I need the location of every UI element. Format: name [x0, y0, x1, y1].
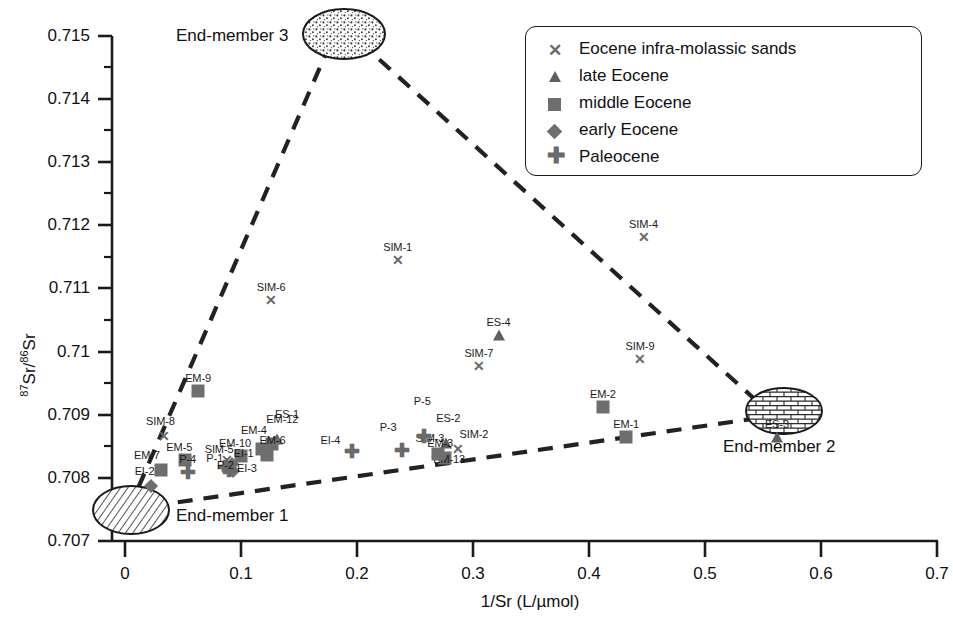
data-point-sim-1: ✕ [392, 253, 404, 267]
data-point-em-6 [260, 449, 273, 462]
data-point-label-es-2: ES-2 [436, 412, 460, 424]
data-point-em-9 [192, 385, 205, 398]
data-point-label-em-6: EM-6 [260, 434, 286, 446]
data-point-label-es-3: ES-3 [765, 418, 789, 430]
data-point-em-2 [596, 400, 609, 413]
data-point-label-p-2: P-2 [217, 459, 234, 471]
data-point-label-em-5: EM-5 [166, 441, 192, 453]
data-point-label-ei-3: EI-3 [237, 462, 257, 474]
data-point-ei-2 [143, 479, 157, 493]
data-point-label-ei-2: EI-2 [135, 465, 155, 477]
data-point-p-5: ✚ [416, 427, 432, 446]
data-point-ei-4: ✚ [344, 441, 360, 460]
data-point-em-7 [154, 463, 167, 476]
data-point-em-3 [432, 447, 445, 460]
data-point-sim-7: ✕ [473, 359, 485, 373]
data-point-label-sim-7: SIM-7 [464, 347, 493, 359]
data-point-es-3 [771, 432, 783, 443]
data-point-p-4: ✚ [180, 463, 196, 482]
data-point-label-p-5: P-5 [414, 395, 431, 407]
data-point-label-p-4: P-4 [179, 453, 196, 465]
data-point-label-ei-1: EI-1 [234, 447, 254, 459]
data-point-label-sim-6: SIM-6 [257, 281, 286, 293]
data-point-sim-4: ✕ [638, 230, 650, 244]
data-point-label-p-3: P-3 [380, 421, 397, 433]
data-point-es-4 [493, 329, 505, 340]
data-point-sim-6: ✕ [265, 293, 277, 307]
data-point-label-em-12: EM-12 [266, 413, 298, 425]
data-point-label-em-9: EM-9 [185, 372, 211, 384]
data-point-label-em-2: EM-2 [590, 388, 616, 400]
data-point-label-sim-8: SIM-8 [146, 415, 175, 427]
data-point-label-sim-2: SIM-2 [459, 428, 488, 440]
data-point-sim-9: ✕ [634, 352, 646, 366]
data-point-label-ei-4: EI-4 [320, 434, 340, 446]
data-point-em-1 [620, 431, 633, 444]
data-point-label-sim-1: SIM-1 [383, 241, 412, 253]
data-point-label-em-7: EM-7 [134, 449, 160, 461]
data-point-label-es-4: ES-4 [486, 316, 510, 328]
data-point-p-3: ✚ [394, 441, 410, 460]
data-point-label-sim-4: SIM-4 [629, 218, 658, 230]
data-point-label-em-1: EM-1 [613, 418, 639, 430]
sr-isotope-mixing-chart: 0.715 0.714 0.713 0.712 0.711 0.71 0.709… [0, 0, 953, 624]
data-points-layer: ✕SIM-1✕SIM-6✕SIM-4✕SIM-7✕SIM-9✕SIM-8✕SIM… [0, 0, 953, 624]
data-point-label-sim-9: SIM-9 [626, 340, 655, 352]
